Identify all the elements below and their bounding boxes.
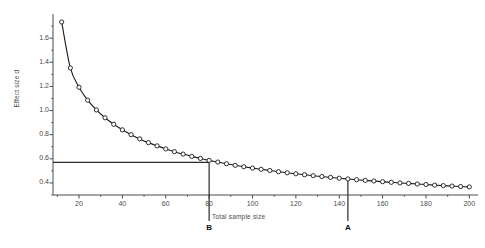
data-point-marker [415,182,419,186]
data-point-marker [285,171,289,175]
data-point-marker [389,180,393,184]
reference-lines [53,162,348,195]
y-tick-label: 1.2 [18,82,49,89]
x-axis-ticks [57,195,469,199]
x-tick-label: 80 [194,200,224,207]
data-point-marker [398,181,402,185]
data-point-marker [60,20,64,24]
data-point-marker [459,184,463,188]
y-tick-label: 0.4 [18,178,49,185]
chart-figure: Total sample size Effect size d 20406080… [0,0,485,248]
data-point-marker [198,156,202,160]
data-point-marker [363,178,367,182]
data-point-marker [294,172,298,176]
data-point-marker [302,173,306,177]
data-point-marker [86,98,90,102]
data-point-marker [224,162,228,166]
data-point-marker [276,170,280,174]
data-point-marker [181,152,185,156]
x-tick-label: 100 [237,200,267,207]
x-tick-label: 200 [454,200,484,207]
data-point-marker [138,137,142,141]
data-point-marker [94,108,98,112]
data-point-marker [68,66,72,70]
data-point-marker [337,176,341,180]
y-tick-label: 0.6 [18,154,49,161]
data-point-marker [380,180,384,184]
x-tick-label: 120 [281,200,311,207]
data-point-marker [250,166,254,170]
data-point-marker [311,174,315,178]
data-point-marker [216,160,220,164]
axes-group [53,14,478,195]
data-point-marker [112,122,116,126]
data-point-marker [268,168,272,172]
data-point-marker [407,181,411,185]
data-point-marker [354,178,358,182]
y-tick-label: 1.6 [18,34,49,41]
data-point-marker [433,183,437,187]
data-point-marker [346,177,350,181]
data-point-marker [242,165,246,169]
data-series-markers [60,20,472,189]
y-tick-label: 1.0 [18,106,49,113]
data-point-marker [129,133,133,137]
x-tick-label: 180 [411,200,441,207]
data-point-marker [328,175,332,179]
data-point-marker [155,144,159,148]
data-point-marker [372,179,376,183]
x-tick-label: 60 [151,200,181,207]
y-tick-label: 1.4 [18,58,49,65]
x-tick-label: 160 [368,200,398,207]
data-point-marker [441,183,445,187]
data-point-marker [120,128,124,132]
data-point-marker [467,185,471,189]
data-point-marker [259,167,263,171]
data-point-marker [190,154,194,158]
data-point-marker [146,141,150,145]
annotation-label-b: B [194,223,224,232]
data-point-marker [424,182,428,186]
data-point-marker [207,158,211,162]
data-point-marker [77,85,81,89]
x-tick-label: 140 [324,200,354,207]
annotation-label-a: A [333,223,363,232]
data-point-marker [450,184,454,188]
data-point-marker [172,150,176,154]
data-point-marker [164,147,168,151]
y-axis-ticks [50,26,54,195]
x-tick-label: 40 [107,200,137,207]
data-point-marker [233,163,237,167]
x-tick-label: 20 [64,200,94,207]
data-point-marker [320,174,324,178]
y-tick-label: 0.8 [18,130,49,137]
data-point-marker [103,116,107,120]
x-axis-title: Total sample size [212,213,265,220]
chart-plot-area [0,0,485,248]
